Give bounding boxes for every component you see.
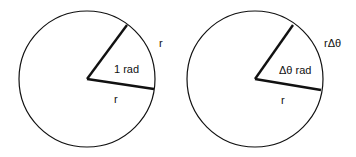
radius-label: r <box>281 94 285 106</box>
radius-label: r <box>114 93 118 105</box>
radian-diagram: r 1 rad r rΔθ Δθ rad r <box>0 0 356 157</box>
radius-line-horizontal <box>255 79 321 90</box>
angle-label: Δθ rad <box>279 64 311 76</box>
radius-line-horizontal <box>87 79 154 89</box>
circle-delta-theta: rΔθ Δθ rad r <box>187 11 341 147</box>
circle-one-radian: r 1 rad r <box>19 11 163 147</box>
angle-label: 1 rad <box>114 63 139 75</box>
arc-length-label: r <box>159 37 163 49</box>
arc-length-label: rΔθ <box>324 37 341 49</box>
